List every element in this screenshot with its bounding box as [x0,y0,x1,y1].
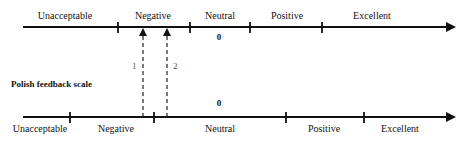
mapping-label-1: 1 [132,62,137,71]
mapping-arrow-2 [163,28,171,117]
top-label-excellent: Excellent [353,11,391,21]
bottom-label-excellent: Excellent [381,124,419,134]
top-label-negative: Negative [135,11,171,21]
diagram-canvas [0,0,463,142]
top-axis-arrow-icon [446,22,456,32]
bottom-label-positive: Positive [308,124,340,134]
top-zero-label: 0 [217,33,222,42]
mapping-label-2: 2 [173,62,178,71]
bottom-label-unacceptable: Unacceptable [13,124,67,134]
up-arrow-icon [163,28,171,36]
top-label-neutral: Neutral [205,11,235,21]
bottom-zero-label: 0 [217,99,222,108]
bottom-label-negative: Negative [98,124,134,134]
up-arrow-icon [139,28,147,36]
bottom-label-neutral: Neutral [205,124,235,134]
top-label-positive: Positive [271,11,303,21]
mapping-arrow-1 [139,28,147,117]
top-label-unacceptable: Unacceptable [38,11,92,21]
bottom-axis-arrow-icon [446,112,456,122]
scale-title: Polish feedback scale [11,80,92,89]
